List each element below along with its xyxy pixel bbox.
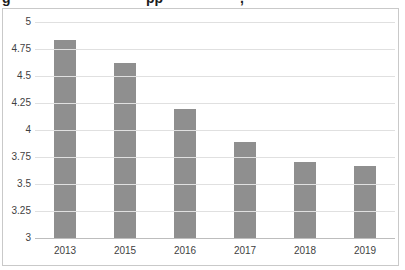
- x-tick-label-2015: 2015: [95, 245, 155, 257]
- bar-2018: [294, 162, 316, 238]
- clipped-title-fragment-2: ,: [240, 0, 244, 6]
- gridline-y-3.5: [35, 184, 395, 185]
- gridline-y-3: [35, 238, 395, 239]
- y-tick-label-3.25: 3.25: [4, 205, 31, 217]
- gridline-y-4: [35, 130, 395, 131]
- x-tick-label-2019: 2019: [335, 245, 395, 257]
- gridline-y-4.75: [35, 49, 395, 50]
- gridline-y-3.75: [35, 157, 395, 158]
- clipped-title-fragment-0: g: [2, 0, 11, 6]
- screenshot-root: gpp, 201320152016201720182019 54.754.54.…: [0, 0, 405, 270]
- x-tick-label-2016: 2016: [155, 245, 215, 257]
- y-tick-label-3.5: 3.5: [4, 178, 31, 190]
- y-tick-label-3: 3: [4, 232, 31, 244]
- clipped-text-row: gpp,: [0, 0, 405, 7]
- clipped-title-fragment-1: pp: [146, 0, 163, 6]
- x-tick-label-2018: 2018: [275, 245, 335, 257]
- gridline-y-3.25: [35, 211, 395, 212]
- bar-2016: [174, 109, 196, 238]
- chart-frame: 201320152016201720182019 54.754.54.2543.…: [2, 8, 399, 266]
- bar-2019: [354, 166, 376, 238]
- bar-2013: [54, 40, 76, 238]
- y-tick-label-4.25: 4.25: [4, 97, 31, 109]
- y-tick-label-4: 4: [4, 124, 31, 136]
- y-tick-label-4.75: 4.75: [4, 43, 31, 55]
- gridline-y-5: [35, 22, 395, 23]
- x-axis-labels: 201320152016201720182019: [35, 245, 395, 257]
- x-tick-label-2017: 2017: [215, 245, 275, 257]
- y-tick-label-4.5: 4.5: [4, 70, 31, 82]
- gridline-y-4.25: [35, 103, 395, 104]
- plot-area: [35, 22, 395, 238]
- gridline-y-4.5: [35, 76, 395, 77]
- y-tick-label-3.75: 3.75: [4, 151, 31, 163]
- x-tick-label-2013: 2013: [35, 245, 95, 257]
- y-tick-label-5: 5: [4, 16, 31, 28]
